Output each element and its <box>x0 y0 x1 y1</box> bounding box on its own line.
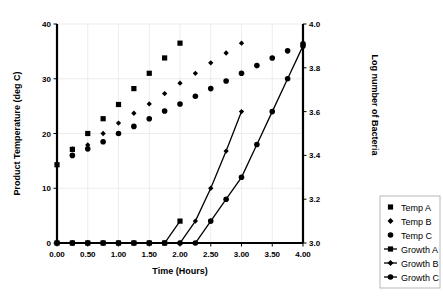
x-axis-tick-label: 4.00 <box>295 250 311 259</box>
data-point-marker <box>162 55 167 60</box>
data-point-marker <box>239 70 245 76</box>
legend-marker-icon <box>388 232 394 238</box>
x-axis-tick-label: 3.00 <box>234 250 250 259</box>
data-point-marker <box>116 131 122 137</box>
legend-item-label: Temp A <box>401 203 431 213</box>
data-point-marker <box>239 175 245 181</box>
data-point-marker <box>100 139 106 145</box>
data-point-marker <box>147 71 152 76</box>
x-axis-tick-label: 0.50 <box>80 250 96 259</box>
y-axis-left-tick-label: 40 <box>42 20 51 29</box>
data-point-marker <box>177 219 182 224</box>
chart-legend: Temp ATemp BTemp CGrowth AGrowth BGrowth… <box>380 196 440 288</box>
y-axis-right-tick-label: 3.0 <box>309 239 321 248</box>
x-axis-tick-label: 0.00 <box>49 250 65 259</box>
data-point-marker <box>177 101 183 107</box>
legend-marker-icon <box>388 246 393 251</box>
data-point-marker <box>85 131 90 136</box>
data-point-marker <box>131 124 137 130</box>
data-point-marker <box>131 86 136 91</box>
y-axis-left-title: Product Temperature (deg C) <box>12 72 22 196</box>
y-axis-right-tick-label: 3.4 <box>309 151 321 160</box>
chart-figure: 0102030403.03.23.43.63.84.00.000.501.001… <box>0 0 443 302</box>
data-point-marker <box>254 63 260 69</box>
legend-item-label: Temp C <box>401 231 433 241</box>
data-point-marker <box>269 109 275 115</box>
x-axis-tick-label: 1.50 <box>141 250 157 259</box>
y-axis-right-tick-label: 3.2 <box>309 195 321 204</box>
data-point-marker <box>162 108 168 114</box>
y-axis-left-tick-label: 10 <box>42 184 51 193</box>
y-axis-right-tick-label: 4.0 <box>309 20 321 29</box>
data-point-marker <box>70 153 76 159</box>
data-point-marker <box>116 102 121 107</box>
data-point-marker <box>285 76 291 82</box>
y-axis-right-tick-label: 3.6 <box>309 108 321 117</box>
dual-axis-scatter-chart: 0102030403.03.23.43.63.84.00.000.501.001… <box>0 0 443 302</box>
y-axis-right-tick-label: 3.8 <box>309 64 321 73</box>
data-point-marker <box>85 146 91 152</box>
data-point-marker <box>285 48 291 54</box>
data-point-marker <box>223 78 229 84</box>
data-point-marker <box>177 41 182 46</box>
x-axis-tick-label: 2.50 <box>203 250 219 259</box>
legend-item-label: Growth B <box>401 259 439 269</box>
x-axis-title: Time (Hours) <box>152 266 207 276</box>
data-point-marker <box>254 142 260 148</box>
y-axis-left-tick-label: 20 <box>42 130 51 139</box>
y-axis-left-tick-label: 0 <box>47 239 52 248</box>
data-point-marker <box>101 116 106 121</box>
data-point-marker <box>146 116 152 122</box>
legend-marker-icon <box>388 204 393 209</box>
data-point-marker <box>269 55 275 61</box>
data-point-marker <box>208 86 214 92</box>
legend-item-label: Growth C <box>401 273 440 283</box>
x-axis-tick-label: 1.00 <box>111 250 127 259</box>
y-axis-right-title: Log number of Bacteria <box>370 54 380 156</box>
data-point-marker <box>193 93 199 99</box>
x-axis-tick-label: 2.00 <box>172 250 188 259</box>
x-axis-tick-label: 3.50 <box>264 250 280 259</box>
data-point-marker <box>223 196 229 202</box>
data-point-marker <box>208 218 214 224</box>
legend-marker-icon <box>388 274 394 280</box>
legend-item-label: Temp B <box>401 217 432 227</box>
legend-item-label: Growth A <box>401 245 438 255</box>
y-axis-left-tick-label: 30 <box>42 75 51 84</box>
